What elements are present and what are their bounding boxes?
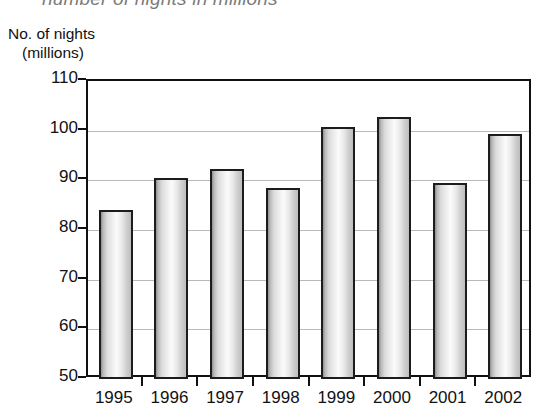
x-tick-label-2000: 2000 xyxy=(364,388,420,408)
y-tick-100 xyxy=(78,128,86,130)
y-tick-label-110: 110 xyxy=(24,68,78,88)
x-tick-2 xyxy=(252,377,254,386)
x-tick-1 xyxy=(196,377,198,386)
y-tick-80 xyxy=(78,227,86,229)
y-tick-60 xyxy=(78,326,86,328)
x-tick-label-1996: 1996 xyxy=(142,388,198,408)
x-tick-4 xyxy=(363,377,365,386)
y-tick-90 xyxy=(78,177,86,179)
gridline-100 xyxy=(88,131,529,132)
bar-1997 xyxy=(210,169,244,379)
chart-caption-strip: number of nights in millions xyxy=(0,0,544,16)
x-tick-6 xyxy=(474,377,476,386)
bar-1995 xyxy=(99,210,133,379)
y-axis-title-line2: (millions) xyxy=(8,43,95,62)
y-axis-title: No. of nights (millions) xyxy=(8,24,95,62)
x-tick-label-1999: 1999 xyxy=(309,388,365,408)
y-axis-title-line1: No. of nights xyxy=(8,25,95,42)
bar-2001 xyxy=(433,183,467,379)
bar-1996 xyxy=(154,178,188,379)
x-tick-5 xyxy=(419,377,421,386)
y-tick-label-50: 50 xyxy=(24,366,78,386)
bar-2002 xyxy=(488,134,522,379)
x-tick-label-1997: 1997 xyxy=(197,388,253,408)
x-tick-label-2001: 2001 xyxy=(420,388,476,408)
bar-1998 xyxy=(266,188,300,379)
bar-2000 xyxy=(377,117,411,379)
y-tick-50 xyxy=(78,376,86,378)
y-tick-70 xyxy=(78,277,86,279)
y-tick-label-80: 80 xyxy=(24,217,78,237)
y-tick-110 xyxy=(78,78,86,80)
y-tick-label-100: 100 xyxy=(24,118,78,138)
x-tick-0 xyxy=(141,377,143,386)
bar-1999 xyxy=(321,127,355,379)
y-tick-label-90: 90 xyxy=(24,167,78,187)
chart-caption: number of nights in millions xyxy=(42,0,278,10)
y-tick-label-70: 70 xyxy=(24,267,78,287)
plot-area xyxy=(86,79,531,377)
y-tick-label-60: 60 xyxy=(24,316,78,336)
x-tick-label-1998: 1998 xyxy=(253,388,309,408)
x-tick-3 xyxy=(308,377,310,386)
x-tick-label-2002: 2002 xyxy=(475,388,531,408)
x-tick-label-1995: 1995 xyxy=(86,388,142,408)
